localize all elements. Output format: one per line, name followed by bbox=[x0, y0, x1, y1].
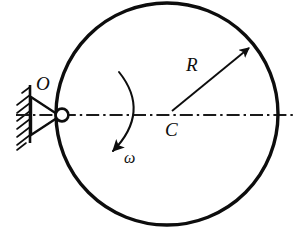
mechanics-diagram-figure: O C R ω bbox=[0, 0, 298, 229]
wall-support-group bbox=[17, 85, 60, 150]
label-pivot-O: O bbox=[36, 74, 50, 93]
label-angular-velocity-omega: ω bbox=[124, 150, 135, 166]
diagram-canvas bbox=[0, 0, 298, 229]
pin-joint bbox=[56, 109, 69, 122]
disk-outline bbox=[56, 3, 278, 225]
label-center-C: C bbox=[165, 120, 178, 139]
label-radius-R: R bbox=[186, 55, 198, 74]
radius-arrow bbox=[172, 48, 249, 111]
omega-rotation-arc bbox=[113, 72, 134, 151]
wall-hatching bbox=[17, 87, 30, 150]
